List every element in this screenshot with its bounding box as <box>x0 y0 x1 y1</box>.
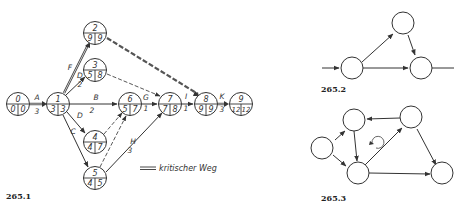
node-1: 1 3 3 <box>47 93 70 116</box>
caption-265-3: 265.3 <box>321 193 346 203</box>
edge-top-to-right <box>408 35 415 55</box>
label-f: F <box>68 63 73 72</box>
svg-text:3: 3 <box>92 61 97 70</box>
svg-text:1: 1 <box>55 95 60 104</box>
node-a <box>311 137 333 159</box>
network-diagram-265-1: A 3 F D 2 B 2 D C G 1 H 3 I 1 K 3 0 0 0 … <box>6 22 253 202</box>
node-e <box>431 162 453 184</box>
svg-text:6: 6 <box>127 95 132 104</box>
dummy-edge-2-8 <box>107 38 198 94</box>
svg-text:4: 4 <box>87 179 92 188</box>
node-4: 4 4 7 <box>84 131 107 154</box>
edge-c-e <box>369 173 430 174</box>
figure-canvas: A 3 F D 2 B 2 D C G 1 H 3 I 1 K 3 0 0 0 … <box>0 0 464 207</box>
svg-text:9: 9 <box>208 105 213 114</box>
label-d2: D <box>77 111 83 120</box>
network-diagram-265-2: 265.2 <box>321 12 454 94</box>
duration-a: 3 <box>35 107 40 116</box>
svg-text:9: 9 <box>87 34 92 43</box>
edge-d-e <box>417 129 436 165</box>
svg-text:0: 0 <box>10 105 15 114</box>
label-k: K <box>220 92 226 101</box>
node-5: 5 4 5 <box>84 167 107 190</box>
svg-text:2: 2 <box>92 24 97 33</box>
edge-a-c <box>333 155 346 166</box>
duration-k: 3 <box>220 105 225 114</box>
svg-text:3: 3 <box>60 105 65 114</box>
node-b <box>343 109 365 131</box>
node-3: 3 5 8 <box>84 59 107 82</box>
svg-text:4: 4 <box>87 143 92 152</box>
svg-text:8: 8 <box>97 71 102 80</box>
edge-a-b <box>335 131 345 140</box>
svg-text:0: 0 <box>15 95 20 104</box>
label-h: H <box>130 137 136 146</box>
node-left <box>341 57 363 79</box>
label-d1: D <box>77 71 83 80</box>
node-0: 0 0 0 <box>7 93 30 116</box>
edge-d-b <box>367 118 400 119</box>
edge-c-d <box>365 128 402 165</box>
label-c: C <box>70 127 76 136</box>
svg-text:5: 5 <box>122 105 127 114</box>
cycle-loop-icon <box>369 136 384 148</box>
edge-b-c <box>354 131 357 161</box>
svg-text:5: 5 <box>97 179 102 188</box>
node-6: 6 5 7 <box>119 93 142 116</box>
duration-h: 3 <box>128 146 133 155</box>
node-d <box>400 106 422 128</box>
svg-text:8: 8 <box>172 105 177 114</box>
label-g: G <box>143 93 149 102</box>
legend: kritischer Weg <box>140 164 217 173</box>
svg-text:9: 9 <box>238 95 243 104</box>
duration-d1: 2 <box>78 80 83 89</box>
svg-text:12: 12 <box>242 106 251 114</box>
svg-text:8: 8 <box>203 95 208 104</box>
node-7: 7 7 8 <box>159 93 182 116</box>
legend-label: kritischer Weg <box>159 164 217 173</box>
svg-text:12: 12 <box>232 106 241 114</box>
node-c <box>347 162 369 184</box>
svg-text:5: 5 <box>92 169 97 178</box>
duration-g: 1 <box>144 104 149 113</box>
label-a: A <box>33 93 39 102</box>
duration-i: 1 <box>184 104 189 113</box>
node-top <box>392 12 414 34</box>
node-right <box>410 57 432 79</box>
svg-text:4: 4 <box>92 133 97 142</box>
node-2: 2 9 9 <box>84 22 107 45</box>
svg-text:9: 9 <box>97 34 102 43</box>
caption-265-1: 265.1 <box>6 191 31 201</box>
node-9: 9 12 12 <box>230 93 253 116</box>
node-8: 8 9 9 <box>195 93 218 116</box>
duration-b: 2 <box>90 106 95 115</box>
label-b: B <box>93 93 98 102</box>
svg-text:9: 9 <box>198 105 203 114</box>
dummy-edge-4-6 <box>104 113 122 134</box>
svg-text:3: 3 <box>50 105 55 114</box>
svg-text:5: 5 <box>87 71 92 80</box>
label-i: I <box>185 92 188 101</box>
svg-text:0: 0 <box>20 105 25 114</box>
edge-left-to-top <box>362 34 393 62</box>
network-diagram-265-3: 265.3 <box>311 106 453 203</box>
caption-265-2: 265.2 <box>321 84 346 94</box>
